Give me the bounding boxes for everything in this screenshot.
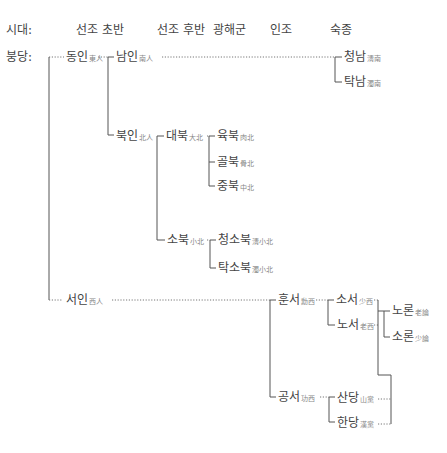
node-label: 공서 xyxy=(278,390,300,404)
node-gongseo: 공서功西 xyxy=(278,390,315,406)
node-taknam: 탁남濁南 xyxy=(344,75,381,91)
node-label: 동인 xyxy=(66,50,88,64)
node-label: 소론 xyxy=(392,330,414,344)
root-label: 붕당: xyxy=(6,50,32,64)
node-jungbuk: 중북中北 xyxy=(217,179,254,195)
node-label: 청소북 xyxy=(218,233,251,247)
node-hanja: 小北 xyxy=(190,238,204,246)
node-seoin: 서인西人 xyxy=(66,293,103,309)
node-soron: 소론少論 xyxy=(392,330,429,346)
node-label: 중북 xyxy=(217,179,239,193)
node-hanja: 濁小北 xyxy=(252,266,273,274)
node-hanja: 北人 xyxy=(139,134,153,142)
node-sandang: 산당山黨 xyxy=(337,391,374,407)
node-handang: 한당漢黨 xyxy=(337,416,374,432)
node-label: 탁남 xyxy=(344,75,366,89)
node-hanja: 大北 xyxy=(189,134,203,142)
node-label: 탁소북 xyxy=(218,261,251,275)
node-label: 청남 xyxy=(344,50,366,64)
node-label: 골북 xyxy=(217,155,239,169)
node-hanja: 老論 xyxy=(415,309,429,317)
node-label: 한당 xyxy=(337,416,359,430)
node-hanja: 漢黨 xyxy=(360,421,374,429)
node-label: 북인 xyxy=(116,129,138,143)
node-hunseo: 훈서勳西 xyxy=(278,293,315,309)
node-bukin: 북인北人 xyxy=(116,129,153,145)
node-label: 소서 xyxy=(336,293,358,307)
node-label: 대북 xyxy=(166,129,188,143)
node-hanja: 肉北 xyxy=(240,134,254,142)
node-daebuk: 대북大北 xyxy=(166,129,203,145)
node-label: 훈서 xyxy=(278,293,300,307)
node-hanja: 南人 xyxy=(139,55,153,63)
node-cheongsobuk: 청소북淸小北 xyxy=(218,233,273,249)
node-hanja: 骨北 xyxy=(240,160,254,168)
node-hanja: 東人 xyxy=(89,55,103,63)
connector-lines xyxy=(0,0,447,453)
node-dongin: 동인東人 xyxy=(66,50,103,66)
node-cheongnam: 청남淸南 xyxy=(344,50,381,66)
node-hanja: 少西 xyxy=(359,298,373,306)
node-label: 소북 xyxy=(167,233,189,247)
node-namin: 남인南人 xyxy=(116,50,153,66)
node-hanja: 功西 xyxy=(301,395,315,403)
node-yukbuk: 육북肉北 xyxy=(217,129,254,145)
node-hanja: 老西 xyxy=(360,323,374,331)
node-hanja: 淸南 xyxy=(367,55,381,63)
node-hanja: 淸小北 xyxy=(252,238,273,246)
node-hanja: 少論 xyxy=(415,335,429,343)
node-label: 육북 xyxy=(217,129,239,143)
node-label: 서인 xyxy=(66,293,88,307)
node-hanja: 山黨 xyxy=(360,396,374,404)
node-noseo: 노서老西 xyxy=(337,318,374,334)
node-label: 노론 xyxy=(392,304,414,318)
node-hanja: 西人 xyxy=(89,298,103,306)
node-soseo: 소서少西 xyxy=(336,293,373,309)
node-label: 노서 xyxy=(337,318,359,332)
node-hanja: 勳西 xyxy=(301,298,315,306)
node-noron: 노론老論 xyxy=(392,304,429,320)
node-golbuk: 골북骨北 xyxy=(217,155,254,171)
node-sobuk: 소북小北 xyxy=(167,233,204,249)
node-hanja: 中北 xyxy=(240,184,254,192)
node-label: 산당 xyxy=(337,391,359,405)
node-taksobuk: 탁소북濁小北 xyxy=(218,261,273,277)
node-label: 남인 xyxy=(116,50,138,64)
node-hanja: 濁南 xyxy=(367,80,381,88)
